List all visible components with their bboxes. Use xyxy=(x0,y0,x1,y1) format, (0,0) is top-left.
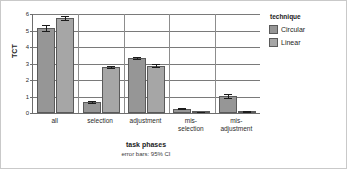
y-axis-tick-label: 2 xyxy=(26,77,29,83)
x-axis-tick-label: selection xyxy=(77,117,122,125)
y-axis-tick xyxy=(30,80,33,81)
error-bar-cap-bottom xyxy=(197,112,205,113)
legend-item-linear[interactable]: Linear xyxy=(269,38,343,47)
bar xyxy=(37,28,55,113)
legend-label-circular: Circular xyxy=(281,26,305,33)
bar xyxy=(56,18,74,113)
error-bar-cap-bottom xyxy=(61,20,69,21)
gridline xyxy=(33,14,260,15)
y-axis-tick-label: 3 xyxy=(26,61,29,67)
chart-figure: TCT 0123456 task phases error bars: 95% … xyxy=(0,0,347,169)
legend-swatch-linear xyxy=(269,38,278,47)
x-axis-subtitle: error bars: 95% CI xyxy=(32,151,260,157)
y-axis-tick-label: 1 xyxy=(26,94,29,100)
legend-item-circular[interactable]: Circular xyxy=(269,25,343,34)
y-axis-tick xyxy=(30,14,33,15)
error-bar-cap-bottom xyxy=(178,109,186,110)
y-axis-tick-label: 0 xyxy=(26,110,29,116)
y-axis-tick xyxy=(30,31,33,32)
group-separator xyxy=(215,14,216,113)
y-axis-tick-label: 6 xyxy=(26,11,29,17)
legend-title: technique xyxy=(269,13,343,20)
bar xyxy=(83,102,101,113)
bar xyxy=(128,58,146,113)
error-bar-cap-top xyxy=(42,25,50,26)
error-bar-cap-bottom xyxy=(42,31,50,32)
error-bar-cap-bottom xyxy=(243,112,251,113)
y-axis-tick-label: 4 xyxy=(26,44,29,50)
error-bar-cap-bottom xyxy=(133,59,141,60)
group-separator xyxy=(78,14,79,113)
error-bar-cap-top xyxy=(133,57,141,58)
x-axis-tick-label: mis- adjustment xyxy=(214,117,259,133)
bar xyxy=(102,67,120,113)
error-bar-cap-bottom xyxy=(107,68,115,69)
bar xyxy=(147,66,165,113)
x-axis-tick-label: adjustment xyxy=(123,117,168,125)
error-bar-cap-bottom xyxy=(152,67,160,68)
x-axis-tick-label: mis- selection xyxy=(168,117,213,133)
error-bar-cap-bottom xyxy=(88,103,96,104)
x-axis-tick-label: all xyxy=(32,117,77,125)
y-axis-tick xyxy=(30,113,33,114)
y-axis-tick xyxy=(30,97,33,98)
group-separator xyxy=(124,14,125,113)
error-bar-cap-top xyxy=(224,94,232,95)
y-axis-tick xyxy=(30,47,33,48)
error-bar-cap-bottom xyxy=(224,98,232,99)
y-axis-title: TCT xyxy=(11,44,18,58)
plot-area: 0123456 xyxy=(32,14,260,114)
error-bar-cap-top xyxy=(152,64,160,65)
legend: technique Circular Linear xyxy=(269,13,343,51)
x-axis-title: task phases xyxy=(32,141,260,148)
legend-swatch-circular xyxy=(269,25,278,34)
legend-label-linear: Linear xyxy=(281,39,300,46)
y-axis-tick-label: 5 xyxy=(26,28,29,34)
group-separator xyxy=(169,14,170,113)
y-axis-tick xyxy=(30,64,33,65)
error-bar-cap-top xyxy=(61,16,69,17)
